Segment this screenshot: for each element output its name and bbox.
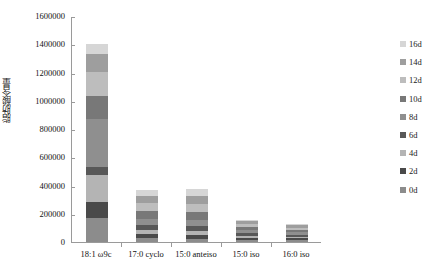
y-axis-tick-text: 1000000: [35, 96, 65, 106]
bar-segment: [86, 96, 108, 120]
plot-area: [71, 17, 321, 243]
legend-item[interactable]: 14d: [400, 58, 435, 76]
x-axis-label: 15:0 anteiso: [171, 249, 221, 259]
bar-segment: [186, 204, 208, 212]
x-axis-label: 16:0 iso: [271, 249, 321, 259]
bar-segment: [86, 167, 108, 175]
bar-segment: [136, 238, 158, 242]
x-axis-label: 18:1 ω9c: [71, 249, 121, 259]
legend-swatch-icon: [400, 132, 406, 138]
stacked-bar: [136, 190, 158, 242]
legend-swatch-icon: [400, 150, 406, 156]
legend-item[interactable]: 16d: [400, 40, 435, 58]
bar-segment: [86, 72, 108, 96]
legend-swatch-icon: [400, 59, 406, 65]
legend-label: 10d: [409, 95, 422, 103]
legend-label: 4d: [409, 149, 418, 157]
y-axis-tick-text: 1600000: [35, 11, 65, 21]
bar-segment: [136, 211, 158, 219]
stacked-bar: [286, 224, 308, 242]
stacked-bar: [86, 44, 108, 242]
bar-segment: [186, 239, 208, 242]
bar-segment: [86, 44, 108, 54]
bar-segment: [136, 196, 158, 203]
x-axis-tick-mark: [221, 243, 222, 247]
y-axis-tick-text: 600000: [40, 152, 66, 162]
y-axis-title: 脂肪酸含量: [1, 78, 15, 123]
bar-segment: [86, 119, 108, 166]
x-axis-tick-mark: [271, 243, 272, 247]
x-axis-label: 17:0 cyclo: [121, 249, 171, 259]
legend-label: 16d: [409, 40, 422, 48]
stacked-bar: [186, 189, 208, 242]
bar-segment: [86, 175, 108, 203]
bar-segment: [186, 196, 208, 204]
legend-label: 14d: [409, 58, 422, 66]
legend-item[interactable]: 2d: [400, 167, 435, 185]
bar-segment: [286, 240, 308, 242]
legend-item[interactable]: 10d: [400, 95, 435, 113]
stacked-bar: [236, 220, 258, 243]
legend-label: 6d: [409, 131, 418, 139]
y-axis-tick-text: 200000: [40, 209, 66, 219]
legend-label: 2d: [409, 167, 418, 175]
legend-swatch-icon: [400, 114, 406, 120]
legend-label: 12d: [409, 76, 422, 84]
bar-segment: [86, 202, 108, 218]
legend-swatch-icon: [400, 41, 406, 47]
legend-swatch-icon: [400, 187, 406, 193]
legend-label: 0d: [409, 186, 418, 194]
bar-segment: [186, 189, 208, 196]
x-axis-tick-mark: [171, 243, 172, 247]
y-axis-tick-text: 1400000: [35, 39, 65, 49]
y-axis-tick-text: 0: [61, 237, 65, 247]
stacked-bar-chart: 脂肪酸含量 1600000140000012000001000000800000…: [0, 0, 435, 272]
legend-item[interactable]: 6d: [400, 131, 435, 149]
legend-swatch-icon: [400, 77, 406, 83]
y-axis-tick-text: 400000: [40, 181, 66, 191]
legend-label: 8d: [409, 113, 418, 121]
x-axis-label: 15:0 iso: [221, 249, 271, 259]
y-axis-tick-text: 1200000: [35, 68, 65, 78]
legend-item[interactable]: 4d: [400, 149, 435, 167]
bar-segment: [86, 54, 108, 72]
bar-segment: [86, 218, 108, 242]
bar-segment: [186, 212, 208, 219]
bar-segment: [136, 203, 158, 211]
bar-segment: [236, 240, 258, 242]
x-axis-tick-mark: [121, 243, 122, 247]
legend-swatch-icon: [400, 168, 406, 174]
legend-swatch-icon: [400, 96, 406, 102]
legend-item[interactable]: 12d: [400, 76, 435, 94]
y-axis-tick-text: 800000: [40, 124, 66, 134]
legend: 16d14d12d10d8d6d4d2d0d: [400, 40, 435, 204]
legend-item[interactable]: 8d: [400, 113, 435, 131]
legend-item[interactable]: 0d: [400, 186, 435, 204]
